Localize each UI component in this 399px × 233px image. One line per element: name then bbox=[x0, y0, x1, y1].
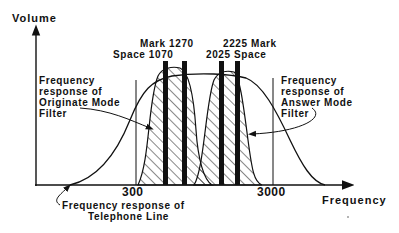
answer-filter-annotation: Frequency response of Answer Mode Filter bbox=[281, 75, 353, 119]
telephone-line-annotation: Frequency response of Telephone Line bbox=[62, 200, 185, 222]
y-axis-label: Volume bbox=[12, 13, 57, 24]
scan-dot bbox=[347, 216, 349, 218]
telephone-line-1: Frequency response of bbox=[62, 200, 185, 211]
space-2025-label: 2025 Space bbox=[206, 49, 267, 60]
originate-line-3: Originate Mode bbox=[39, 97, 120, 108]
answer-line-3: Answer Mode bbox=[281, 97, 353, 108]
mark-1270-label: Mark 1270 bbox=[140, 38, 194, 49]
mark-2225-bar bbox=[235, 61, 240, 185]
tick-3000: 3000 bbox=[257, 187, 286, 198]
answer-filter-response bbox=[194, 71, 262, 185]
tick-300: 300 bbox=[122, 187, 144, 198]
x-axis-label: Frequency bbox=[322, 195, 387, 206]
answer-line-4: Filter bbox=[281, 108, 353, 119]
originate-line-1: Frequency bbox=[39, 75, 120, 86]
answer-line-1: Frequency bbox=[281, 75, 353, 86]
mark-1270-bar bbox=[182, 61, 187, 185]
answer-line-2: response of bbox=[281, 86, 353, 97]
space-1070-label: Space 1070 bbox=[113, 49, 174, 60]
mark-2225-label: 2225 Mark bbox=[223, 38, 277, 49]
originate-filter-annotation: Frequency response of Originate Mode Fil… bbox=[39, 75, 120, 119]
space-1070-bar bbox=[163, 61, 168, 185]
originate-line-2: response of bbox=[39, 86, 120, 97]
telephone-line-2: Telephone Line bbox=[62, 211, 185, 222]
originate-line-4: Filter bbox=[39, 108, 120, 119]
space-2025-bar bbox=[219, 61, 224, 185]
